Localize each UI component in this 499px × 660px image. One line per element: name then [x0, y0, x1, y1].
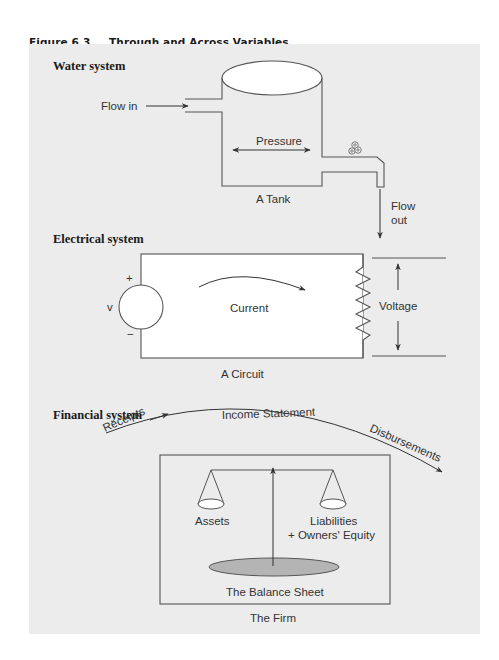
water-system-heading: Water system	[53, 59, 126, 73]
firm-caption: The Firm	[250, 612, 296, 624]
flow-in-label: Flow in	[101, 100, 137, 112]
balance-sheet-label: The Balance Sheet	[226, 586, 325, 598]
financial-system: Financial system Receipts Income Stateme…	[53, 405, 443, 624]
plus-sign: +	[126, 272, 133, 284]
electrical-system: Electrical system + − v Current Voltage …	[53, 232, 446, 380]
receipts-arrow-icon	[150, 414, 168, 420]
pressure-label: Pressure	[256, 135, 302, 147]
income-statement-label: Income Statement	[222, 406, 316, 421]
tank-icon	[185, 61, 384, 187]
liabilities-label-line1: Liabilities	[310, 515, 358, 527]
liabilities-label-line2: + Owners' Equity	[288, 529, 375, 541]
through-across-diagram: Water system Flow in Pressure A Tank Flo…	[0, 0, 499, 660]
flow-out-label-line1: Flow	[391, 200, 416, 212]
electrical-system-heading: Electrical system	[53, 232, 144, 246]
source-label: v	[107, 301, 113, 313]
circuit-caption: A Circuit	[221, 368, 265, 380]
current-label: Current	[230, 302, 269, 314]
valve-icon	[349, 142, 361, 154]
water-system: Water system Flow in Pressure A Tank Flo…	[53, 59, 416, 238]
voltage-label: Voltage	[379, 300, 417, 312]
tank-caption: A Tank	[256, 193, 291, 205]
disbursements-label: Disbursements	[368, 422, 443, 464]
assets-label: Assets	[195, 515, 230, 527]
flow-out-label-line2: out	[391, 214, 408, 226]
minus-sign: −	[127, 328, 134, 340]
